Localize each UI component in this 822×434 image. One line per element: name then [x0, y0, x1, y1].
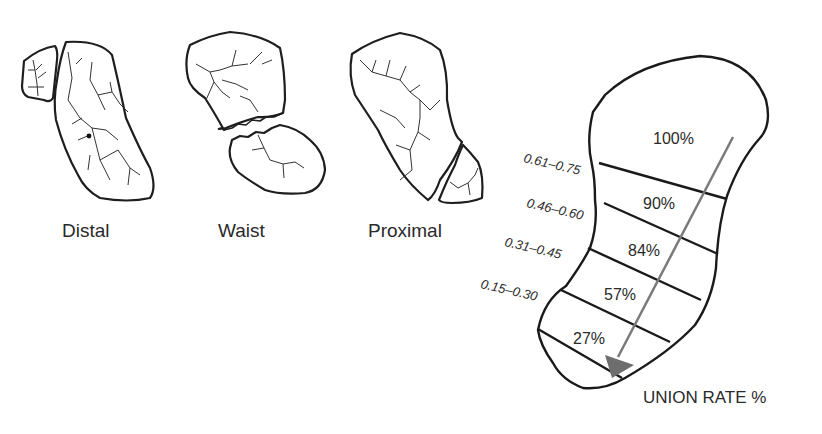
- zone-divider-1: [599, 163, 727, 199]
- label-waist: Waist: [218, 220, 265, 242]
- zone-rate-27: 27%: [573, 330, 605, 348]
- distal-scaphoid: [55, 42, 154, 201]
- diagram-canvas: [0, 0, 822, 434]
- union-rate-axis-label: UNION RATE %: [643, 388, 766, 408]
- zone-rate-84: 84%: [628, 242, 660, 260]
- distal-fragment: [22, 46, 57, 101]
- zone-rate-57: 57%: [604, 286, 636, 304]
- waist-scaphoid-bottom: [230, 125, 325, 194]
- zone-rate-100: 100%: [653, 130, 694, 148]
- label-proximal: Proximal: [368, 220, 442, 242]
- zone-rate-90: 90%: [643, 195, 675, 213]
- label-distal: Distal: [62, 220, 110, 242]
- waist-scaphoid-top: [186, 32, 285, 130]
- center-point: [87, 134, 92, 139]
- trabecular-pattern: [28, 50, 478, 195]
